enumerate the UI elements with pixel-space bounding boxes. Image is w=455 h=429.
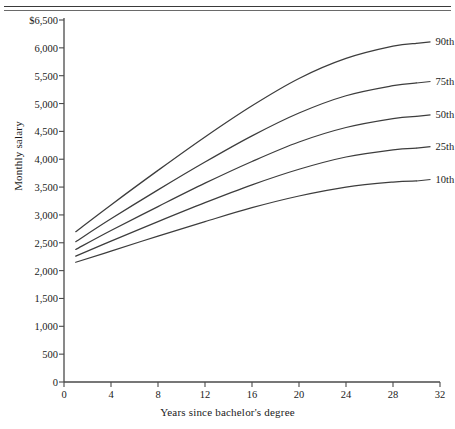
y-tick-label: 1,500 — [0, 293, 58, 304]
y-tick-label: 5,000 — [0, 98, 58, 109]
y-tick-label: 4,500 — [0, 126, 58, 137]
series-label-10th: 10th — [436, 173, 455, 184]
series-leader-50th — [417, 115, 431, 117]
y-tick-label: 500 — [0, 349, 58, 360]
y-tick-label: 2,500 — [0, 237, 58, 248]
series-label-25th: 25th — [436, 141, 455, 152]
y-tick-label: 3,500 — [0, 182, 58, 193]
x-tick-label: 24 — [326, 389, 366, 400]
series-label-90th: 90th — [436, 36, 455, 47]
x-tick-label: 12 — [185, 389, 225, 400]
y-tick-label: 1,000 — [0, 321, 58, 332]
y-tick-label: 2,000 — [0, 265, 58, 276]
x-tick-label: 32 — [420, 389, 455, 400]
y-axis-tick-labels: 05001,0001,5002,0002,5003,0003,5004,0004… — [0, 0, 58, 429]
x-tick-label: 16 — [232, 389, 272, 400]
series-leader-25th — [417, 147, 431, 149]
series-leader-10th — [417, 179, 431, 181]
x-tick-label: 0 — [44, 389, 84, 400]
chart-figure: Monthly salary Years since bachelor's de… — [0, 0, 455, 429]
series-leader-75th — [417, 81, 431, 83]
y-tick-label: 0 — [0, 377, 58, 388]
plot-canvas — [0, 0, 455, 429]
x-tick-label: 8 — [138, 389, 178, 400]
y-tick-label: 5,500 — [0, 70, 58, 81]
x-axis-title: Years since bachelor's degree — [0, 406, 455, 418]
x-tick-label: 20 — [279, 389, 319, 400]
y-tick-label: 4,000 — [0, 154, 58, 165]
y-tick-label: $6,500 — [0, 15, 58, 26]
y-tick-label: 6,000 — [0, 42, 58, 53]
series-line-75th — [76, 83, 417, 242]
series-line-90th — [76, 43, 417, 231]
series-line-50th — [76, 116, 417, 249]
x-tick-label: 28 — [373, 389, 413, 400]
y-tick-label: 3,000 — [0, 209, 58, 220]
series-label-50th: 50th — [436, 109, 455, 120]
series-leader-90th — [417, 42, 431, 44]
x-tick-label: 4 — [91, 389, 131, 400]
series-label-75th: 75th — [436, 75, 455, 86]
